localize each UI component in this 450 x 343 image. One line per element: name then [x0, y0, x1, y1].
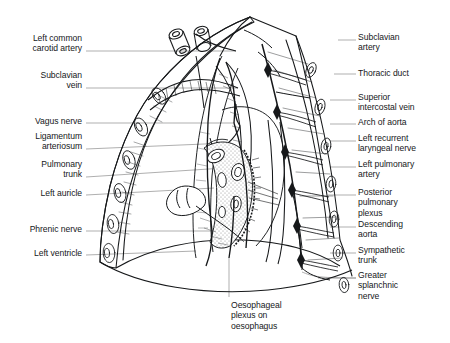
label-left-pulmonary-artery: Left pulmonaryartery [358, 159, 414, 180]
label-subclavian-artery: Subclavianartery [358, 32, 400, 53]
label-greater-splanchnic-nerve: Greatersplanchnicnerve [358, 270, 398, 301]
label-sympathetic-trunk: Sympathetictrunk [358, 245, 405, 266]
label-phrenic-nerve: Phrenic nerve [30, 224, 82, 234]
brachiocephalic-trunk [196, 56, 204, 108]
rami-communicantes [268, 70, 338, 271]
anterior-chest-border [220, 17, 250, 56]
label-posterior-pulmonary-plexus: Posteriorpulmonaryplexus [358, 187, 398, 218]
sternum-anterior-wall [250, 17, 334, 238]
anatomical-figure-page: Left commoncarotid artery Subclavianvein… [0, 0, 450, 343]
label-ligamentum-arteriosum: Ligamentumarteriosum [35, 131, 82, 152]
label-descending-aorta: Descendingaorta [358, 219, 403, 240]
vein-ring-hatching [158, 81, 216, 103]
label-left-auricle: Left auricle [41, 188, 82, 198]
label-oesophageal-plexus-on-oesophagus: Oesophagealplexus onoesophagus [231, 300, 282, 331]
sympathetic-trunk-group [244, 30, 338, 280]
diaphragm-lower-border [100, 262, 352, 292]
label-left-ventricle: Left ventricle [34, 248, 82, 258]
label-arch-of-aorta: Arch of aorta [358, 117, 407, 127]
label-left-recurrent-laryngeal-nerve: Left recurrentlaryngeal nerve [358, 133, 416, 154]
label-subclavian-vein: Subclavianvein [40, 70, 82, 91]
label-thoracic-duct: Thoracic duct [358, 68, 409, 78]
posterior-thoracic-wall-inner [286, 40, 328, 238]
label-left-common-carotid-artery: Left commoncarotid artery [33, 33, 82, 54]
label-vagus-nerve: Vagus nerve [35, 116, 82, 126]
cut-vessel-stump-left [168, 27, 192, 58]
label-pulmonary-trunk: Pulmonarytrunk [41, 159, 82, 180]
descending-aorta-vessel [266, 120, 273, 262]
subclavian-artery-line [244, 30, 272, 48]
label-superior-intercostal-vein: Superiorintercostal vein [358, 92, 415, 113]
